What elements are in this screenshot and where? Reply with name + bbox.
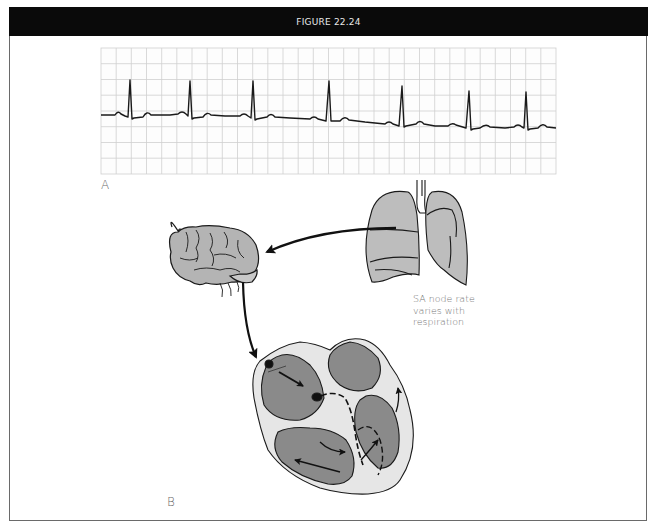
ecg-grid <box>101 48 556 174</box>
brain-illustration <box>170 222 259 297</box>
caption-line: respiration <box>413 316 475 328</box>
arrow-brain-to-heart <box>243 282 256 357</box>
panel-a-label: A <box>101 178 109 192</box>
sa-node <box>265 360 273 368</box>
lungs-illustration <box>366 180 467 285</box>
panel-b-label: B <box>167 495 175 509</box>
heart-illustration <box>253 339 413 494</box>
figure-illustration <box>0 0 656 531</box>
sa-node-caption: SA node rate varies with respiration <box>413 293 475 328</box>
av-node <box>312 393 322 401</box>
caption-line: varies with <box>413 305 475 317</box>
caption-line: SA node rate <box>413 293 475 305</box>
